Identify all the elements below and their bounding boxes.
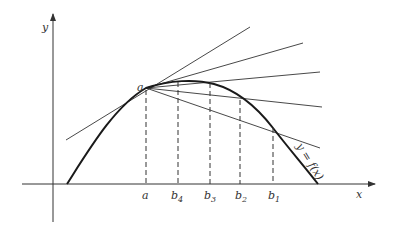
svg-text:b2: b2	[235, 189, 247, 204]
tick-label-b1: b1	[268, 189, 280, 204]
tick-label-a: a	[142, 189, 149, 202]
svg-text:b1: b1	[268, 189, 280, 204]
svg-text:b3: b3	[204, 189, 216, 204]
point-a-label: a	[137, 81, 144, 94]
secant-line-b4	[146, 43, 303, 88]
y-axis-label: y	[41, 21, 49, 34]
svg-text:b4: b4	[171, 189, 183, 204]
secant-tangent-diagram: y x a y = f(x) a b4 b3 b2 b1	[0, 0, 398, 230]
tangent-line	[66, 27, 250, 140]
tick-label-b3: b3	[204, 189, 216, 204]
tick-label-b4: b4	[171, 189, 183, 204]
tick-label-b2: b2	[235, 189, 247, 204]
x-axis-label: x	[356, 188, 363, 201]
curve-label: y = f(x)	[293, 140, 326, 183]
curve-f	[67, 81, 318, 184]
svg-text:a: a	[142, 189, 149, 202]
